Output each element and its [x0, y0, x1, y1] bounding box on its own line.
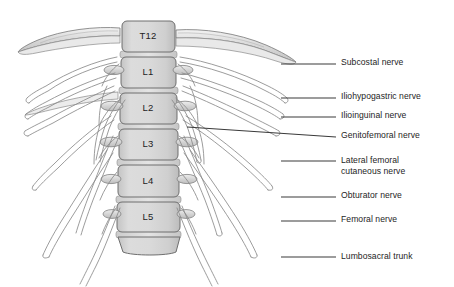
vertebra-label-l2: L2	[143, 102, 154, 113]
callout-label-iliohypogastric-nerve: Iliohypogastric nerve	[341, 91, 421, 102]
anatomy-figure: T12 L1 L2 L3 L4 L5 Subcostal nerve Ilioh…	[0, 0, 454, 287]
nerve-roots-left	[24, 57, 125, 286]
nerve-femoral	[184, 150, 257, 258]
callout-label-obturator-nerve: Obturator nerve	[341, 190, 402, 201]
vertebra-label-l5: L5	[143, 211, 154, 222]
twelfth-rib-left	[18, 28, 120, 55]
callout-label-genitofemoral-nerve: Genitofemoral nerve	[341, 130, 420, 141]
vertebra-label-l1: L1	[143, 66, 154, 77]
anatomy-illustration: T12 L1 L2 L3 L4 L5	[0, 0, 454, 287]
twelfth-rib-right	[176, 30, 296, 65]
nerve-roots-right	[172, 57, 288, 286]
vertebra-label-l4: L4	[143, 175, 154, 186]
vertebra-label-t12: T12	[140, 30, 157, 41]
vertebra-label-l3: L3	[143, 138, 154, 149]
callout-leader-lines	[187, 64, 336, 257]
nerve-iliohypogastric	[181, 73, 284, 119]
callout-label-subcostal-nerve: Subcostal nerve	[341, 57, 403, 68]
callout-label-lateral-femoral-cutaneous-nerve: Lateral femoral cutaneous nerve	[341, 155, 405, 176]
callout-label-ilioinguinal-nerve: Ilioinguinal nerve	[341, 110, 406, 121]
callout-label-lumbosacral-trunk: Lumbosacral trunk	[341, 251, 413, 262]
callout-label-femoral-nerve: Femoral nerve	[341, 214, 397, 225]
